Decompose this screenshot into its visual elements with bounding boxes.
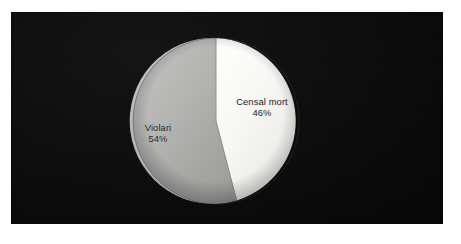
pie-label-censal-mort: Censal mort 46% [216,96,308,119]
figure: Censal mort 46% Violari 54% [0,0,461,244]
pie-label-violari-name: Violari [119,122,197,133]
pie-label-censal-mort-name: Censal mort [216,96,308,107]
pie-label-violari: Violari 54% [119,122,197,145]
pie-label-violari-value: 54% [119,133,197,144]
pie-chart: Censal mort 46% Violari 54% [11,12,443,224]
pie-rim-shading [133,38,299,204]
pie-label-censal-mort-value: 46% [216,107,308,118]
chart-panel: Censal mort 46% Violari 54% [11,12,443,224]
